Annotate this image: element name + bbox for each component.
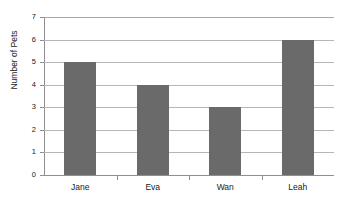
gridline-7 (44, 17, 334, 18)
bar-jane (64, 62, 96, 175)
clipped-top-text (180, 0, 340, 3)
bar-wan (209, 107, 241, 175)
plot-area (44, 17, 334, 175)
x-label-eva: Eva (113, 182, 193, 192)
y-tick-label-4: 4 (0, 81, 36, 88)
bar-leah (282, 40, 314, 175)
y-tick-label-5: 5 (0, 58, 36, 65)
x-label-wan: Wan (185, 182, 265, 192)
x-tick-3 (262, 176, 263, 180)
y-tick-label-3: 3 (0, 103, 36, 110)
bar-eva (137, 85, 169, 175)
x-label-jane: Jane (40, 182, 120, 192)
y-tick-label-1: 1 (0, 148, 36, 155)
y-tick-label-6: 6 (0, 36, 36, 43)
y-tick-label-2: 2 (0, 126, 36, 133)
x-tick-1 (117, 176, 118, 180)
x-tick-2 (189, 176, 190, 180)
y-tick-label-0: 0 (0, 171, 36, 178)
bar-chart: Number of Pets 01234567 JaneEvaWanLeah (0, 0, 342, 203)
x-label-leah: Leah (258, 182, 338, 192)
y-tick-label-7: 7 (0, 13, 36, 20)
